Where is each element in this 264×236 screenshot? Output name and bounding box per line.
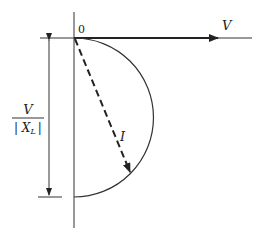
phasor-diagram: 0 V I V | XL|: [0, 0, 264, 236]
origin-label: 0: [78, 23, 85, 36]
dimension-label: V | XL|: [12, 102, 44, 136]
current-locus-semicircle: [74, 38, 153, 197]
dimension-denominator: | XL|: [14, 121, 42, 136]
voltage-label: V: [222, 18, 233, 33]
current-phasor-arrow: [75, 39, 130, 172]
current-label: I: [119, 129, 126, 144]
dimension-numerator: V: [23, 102, 34, 117]
